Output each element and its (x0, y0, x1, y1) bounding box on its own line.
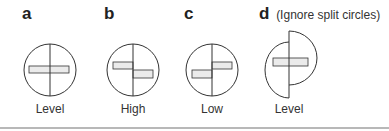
panel-a-label: a (22, 4, 31, 24)
panel-letter: a (22, 4, 31, 23)
panel-letter: d (259, 4, 269, 23)
divider-line (0, 127, 389, 129)
panel-c-figure (186, 44, 238, 96)
panel-c-caption: Low (182, 102, 242, 116)
left-bar-raised (113, 62, 133, 69)
left-half-circle (265, 42, 289, 98)
right-bar-raised (212, 62, 232, 69)
level-bar (273, 58, 308, 66)
panel-d-label: d (Ignore split circles) (259, 4, 380, 24)
panel-a-caption: Level (20, 102, 80, 116)
panel-d-figure (265, 31, 317, 98)
panel-b-label: b (104, 4, 114, 24)
panel-note: (Ignore split circles) (276, 8, 380, 22)
left-bar-lowered (192, 70, 212, 78)
right-bar-lowered (133, 70, 153, 78)
panel-letter: b (104, 4, 114, 23)
level-bar (29, 66, 69, 73)
panel-b-figure (107, 44, 159, 96)
panel-c-label: c (184, 4, 193, 24)
panel-b-caption: High (103, 102, 163, 116)
panel-letter: c (184, 4, 193, 23)
panel-d-caption: Level (259, 102, 319, 116)
panel-a-figure (24, 44, 76, 96)
